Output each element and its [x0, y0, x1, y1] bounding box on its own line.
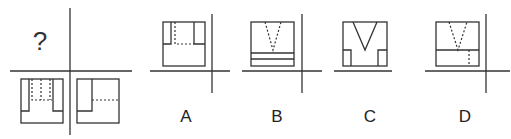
side-view — [77, 79, 119, 123]
option-d-label[interactable]: D — [459, 107, 471, 127]
diagram-canvas — [0, 0, 511, 139]
option-d-figure[interactable] — [425, 14, 510, 93]
option-b-figure[interactable] — [242, 14, 322, 93]
option-c-figure[interactable] — [334, 22, 392, 71]
option-a-label[interactable]: A — [180, 107, 191, 127]
question-mark: ? — [33, 26, 47, 57]
option-a-figure[interactable] — [150, 14, 230, 93]
option-c-label[interactable]: C — [364, 107, 376, 127]
option-b-label[interactable]: B — [271, 107, 282, 127]
front-view — [21, 79, 63, 123]
